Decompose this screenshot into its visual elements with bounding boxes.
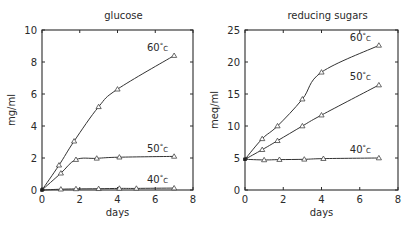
x-tick-label: 6: [357, 194, 363, 205]
x-tick-label: 4: [318, 194, 324, 205]
series-line: [245, 45, 379, 159]
x-tick-label: 8: [190, 194, 196, 205]
series-label: 50°C: [350, 71, 371, 82]
triangle-marker: [172, 53, 177, 57]
x-axis-label: days: [310, 207, 334, 218]
y-axis-label: meq/ml: [209, 91, 220, 129]
x-axis-label: days: [106, 207, 130, 218]
y-tick-label: 10: [227, 121, 240, 132]
y-tick-label: 25: [227, 25, 240, 36]
triangle-marker: [115, 87, 120, 91]
series-60c: 60°C: [244, 32, 382, 161]
y-axis-label: mg/ml: [6, 94, 17, 126]
series-40c: 40°C: [244, 144, 382, 162]
triangle-marker: [319, 113, 324, 117]
series-line: [42, 56, 174, 190]
x-tick-label: 6: [152, 194, 158, 205]
chart-title: reducing sugars: [287, 10, 367, 21]
series-40c: 40°C: [41, 174, 177, 192]
y-tick-label: 20: [227, 57, 240, 68]
x-tick-label: 8: [395, 194, 401, 205]
x-tick-label: 2: [77, 194, 83, 205]
triangle-marker: [376, 43, 381, 47]
series-label: 50°C: [147, 143, 168, 154]
plot-frame: [245, 30, 398, 190]
plot-frame: [42, 30, 193, 190]
y-tick-label: 2: [31, 153, 37, 164]
chart-canvas: glucose024680246810daysmg/ml60°C50°C40°C…: [0, 0, 418, 232]
reducing-sugars-panel: reducing sugars024680510152025daysmeq/ml…: [209, 10, 401, 218]
series-60c: 60°C: [41, 42, 177, 192]
y-tick-label: 5: [234, 153, 240, 164]
x-tick-label: 4: [114, 194, 120, 205]
series-label: 60°C: [350, 32, 371, 43]
origin-marker: [244, 158, 247, 161]
triangle-marker: [260, 147, 265, 151]
glucose-panel: glucose024680246810daysmg/ml60°C50°C40°C: [6, 10, 196, 218]
y-tick-label: 8: [31, 57, 37, 68]
x-tick-label: 0: [242, 194, 248, 205]
triangle-marker: [275, 138, 280, 142]
figure: glucose024680246810daysmg/ml60°C50°C40°C…: [0, 0, 418, 232]
y-tick-label: 6: [31, 89, 37, 100]
y-tick-label: 4: [31, 121, 37, 132]
y-tick-label: 10: [24, 25, 37, 36]
triangle-marker: [319, 70, 324, 74]
origin-marker: [41, 189, 44, 192]
y-tick-label: 15: [227, 89, 240, 100]
chart-title: glucose: [104, 10, 142, 21]
series-label: 40°C: [350, 144, 371, 155]
x-tick-label: 0: [39, 194, 45, 205]
triangle-marker: [300, 123, 305, 127]
series-label: 40°C: [147, 174, 168, 185]
y-tick-label: 0: [234, 185, 240, 196]
y-tick-label: 0: [31, 185, 37, 196]
triangle-marker: [376, 82, 381, 86]
series-label: 60°C: [147, 42, 168, 53]
x-tick-label: 2: [280, 194, 286, 205]
